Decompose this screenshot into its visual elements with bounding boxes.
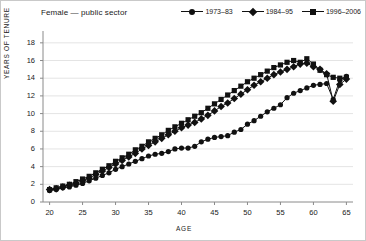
data-point bbox=[93, 170, 98, 175]
data-point bbox=[146, 153, 151, 158]
data-point bbox=[153, 136, 158, 141]
data-point bbox=[271, 65, 276, 70]
data-point bbox=[179, 145, 184, 150]
data-point bbox=[159, 132, 164, 137]
data-point bbox=[344, 75, 349, 80]
data-point bbox=[271, 106, 276, 111]
data-point bbox=[218, 134, 223, 139]
data-point bbox=[258, 114, 263, 119]
data-point bbox=[166, 149, 171, 154]
data-point bbox=[258, 72, 263, 77]
data-point bbox=[270, 71, 278, 79]
data-point bbox=[186, 117, 191, 122]
data-point bbox=[172, 124, 177, 129]
x-tick-label: 30 bbox=[106, 208, 126, 217]
data-point bbox=[278, 62, 283, 67]
data-point bbox=[237, 90, 245, 98]
data-point bbox=[80, 176, 85, 181]
y-tick-label: 8 bbox=[15, 126, 35, 135]
data-point bbox=[113, 159, 118, 164]
data-point bbox=[245, 122, 250, 127]
data-point bbox=[291, 91, 296, 96]
chart-figure: Female — public sector 1973–831984–95199… bbox=[0, 0, 366, 241]
data-point bbox=[67, 182, 72, 187]
data-point bbox=[224, 99, 232, 107]
plot-svg bbox=[1, 1, 366, 241]
data-point bbox=[54, 185, 59, 190]
data-point bbox=[139, 156, 144, 161]
x-tick-label: 50 bbox=[237, 208, 257, 217]
data-point bbox=[238, 84, 243, 89]
data-point bbox=[159, 151, 164, 156]
data-point bbox=[298, 60, 303, 65]
data-point bbox=[120, 164, 125, 169]
data-point bbox=[225, 133, 230, 138]
data-point bbox=[324, 72, 329, 77]
data-point bbox=[232, 88, 237, 93]
data-point bbox=[212, 101, 217, 106]
data-point bbox=[311, 61, 316, 66]
series-square bbox=[47, 56, 349, 192]
data-point bbox=[298, 88, 303, 93]
data-point bbox=[172, 146, 177, 151]
data-point bbox=[290, 63, 298, 71]
data-point bbox=[304, 85, 309, 90]
x-tick-label: 45 bbox=[204, 208, 224, 217]
data-point bbox=[87, 174, 92, 179]
data-point bbox=[225, 92, 230, 97]
data-point bbox=[329, 97, 337, 105]
data-point bbox=[304, 56, 309, 61]
data-point bbox=[337, 76, 342, 81]
data-point bbox=[205, 106, 210, 111]
data-point bbox=[133, 159, 138, 164]
data-point bbox=[106, 163, 111, 168]
data-point bbox=[166, 128, 171, 133]
data-point bbox=[133, 147, 138, 152]
data-point bbox=[263, 74, 271, 82]
data-point bbox=[278, 102, 283, 107]
data-point bbox=[277, 68, 285, 76]
data-point bbox=[184, 121, 192, 129]
x-tick-label: 35 bbox=[139, 208, 159, 217]
data-point bbox=[317, 68, 322, 73]
data-point bbox=[212, 135, 217, 140]
data-point bbox=[251, 76, 256, 81]
y-tick-label: 4 bbox=[15, 162, 35, 171]
data-point bbox=[245, 79, 250, 84]
data-point bbox=[197, 115, 205, 123]
data-point bbox=[153, 152, 158, 157]
x-tick-label: 65 bbox=[336, 208, 356, 217]
data-point bbox=[257, 78, 265, 86]
data-point bbox=[204, 112, 212, 120]
data-point bbox=[60, 183, 65, 188]
data-point bbox=[331, 75, 336, 80]
data-point bbox=[199, 110, 204, 115]
x-tick-label: 55 bbox=[270, 208, 290, 217]
data-point bbox=[192, 114, 197, 119]
x-tick-label: 40 bbox=[172, 208, 192, 217]
series-diamond bbox=[46, 59, 350, 193]
y-tick-label: 18 bbox=[15, 38, 35, 47]
data-point bbox=[265, 69, 270, 74]
data-point bbox=[186, 145, 191, 150]
data-point bbox=[179, 121, 184, 126]
data-point bbox=[284, 60, 289, 65]
x-tick-label: 60 bbox=[303, 208, 323, 217]
data-point bbox=[317, 82, 322, 87]
y-tick-label: 14 bbox=[15, 73, 35, 82]
y-tick-label: 10 bbox=[15, 109, 35, 118]
data-point bbox=[311, 83, 316, 88]
y-tick-label: 2 bbox=[15, 179, 35, 188]
data-point bbox=[244, 86, 252, 94]
data-point bbox=[250, 81, 258, 89]
data-point bbox=[100, 167, 105, 172]
plot-area: YEARS OF TENURE AGE 02468101214161820253… bbox=[1, 1, 366, 241]
data-point bbox=[251, 118, 256, 123]
data-point bbox=[232, 130, 237, 135]
data-point bbox=[218, 97, 223, 102]
data-point bbox=[283, 66, 291, 74]
data-point bbox=[120, 155, 125, 160]
data-point bbox=[284, 95, 289, 100]
data-point bbox=[47, 187, 52, 192]
y-tick-label: 6 bbox=[15, 144, 35, 153]
